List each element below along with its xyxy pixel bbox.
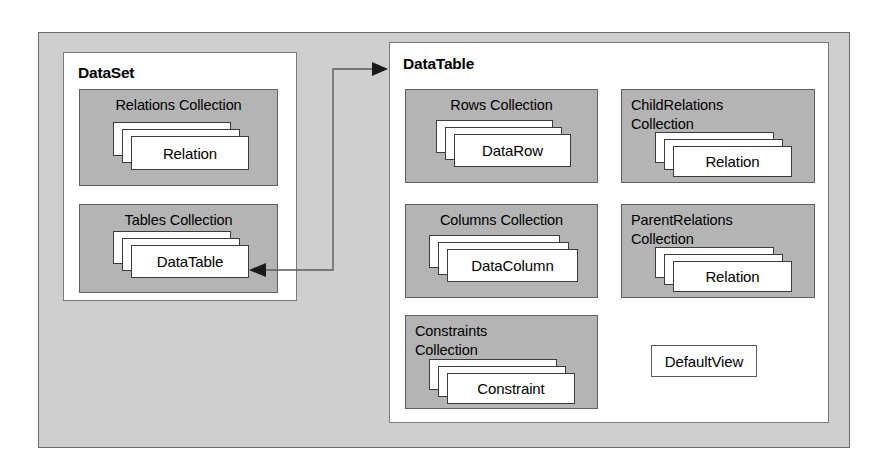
- collection-relations: Relations Collection Relation: [79, 89, 278, 186]
- stack-card-front: Relation: [673, 261, 792, 292]
- collection-tables: Tables Collection DataTable: [79, 204, 278, 293]
- stack-card-front: Constraint: [447, 373, 575, 404]
- collection-parentrelations-label: ParentRelations Collection: [622, 211, 814, 249]
- collection-columns-label: Columns Collection: [406, 211, 597, 230]
- defaultview-box: DefaultView: [651, 345, 757, 377]
- dataset-panel: DataSet Relations Collection Relation Ta…: [63, 52, 297, 301]
- datatable-title: DataTable: [403, 55, 474, 73]
- card-label-childrelation: Relation: [705, 153, 759, 170]
- diagram-canvas: DataSet Relations Collection Relation Ta…: [0, 0, 887, 474]
- collection-childrelations: ChildRelations Collection Relation: [621, 89, 815, 183]
- collection-relations-label: Relations Collection: [80, 96, 277, 115]
- stack-card-front: Relation: [131, 136, 249, 170]
- stack-card-front: Relation: [673, 146, 792, 177]
- collection-parentrelations: ParentRelations Collection Relation: [621, 204, 815, 298]
- stack-card-front: DataColumn: [447, 249, 578, 282]
- stack-card-front: DataTable: [131, 245, 249, 278]
- collection-tables-label: Tables Collection: [80, 211, 277, 230]
- collection-childrelations-label: ChildRelations Collection: [622, 96, 814, 134]
- card-label-datatable: DataTable: [157, 253, 224, 270]
- stack-card-front: DataRow: [454, 134, 571, 167]
- card-label-relation: Relation: [163, 145, 217, 162]
- collection-columns: Columns Collection DataColumn: [405, 204, 598, 298]
- datatable-panel: DataTable Rows Collection DataRow Column…: [389, 42, 829, 423]
- collection-constraints-label: Constraints Collection: [406, 322, 597, 360]
- dataset-title: DataSet: [78, 64, 134, 82]
- card-label-datarow: DataRow: [482, 142, 543, 159]
- collection-constraints: Constraints Collection Constraint: [405, 315, 598, 409]
- card-label-parentrelation: Relation: [705, 268, 759, 285]
- defaultview-label: DefaultView: [665, 353, 744, 370]
- collection-rows: Rows Collection DataRow: [405, 89, 598, 183]
- collection-rows-label: Rows Collection: [406, 96, 597, 115]
- card-label-constraint: Constraint: [477, 380, 544, 397]
- card-label-datacolumn: DataColumn: [471, 257, 553, 274]
